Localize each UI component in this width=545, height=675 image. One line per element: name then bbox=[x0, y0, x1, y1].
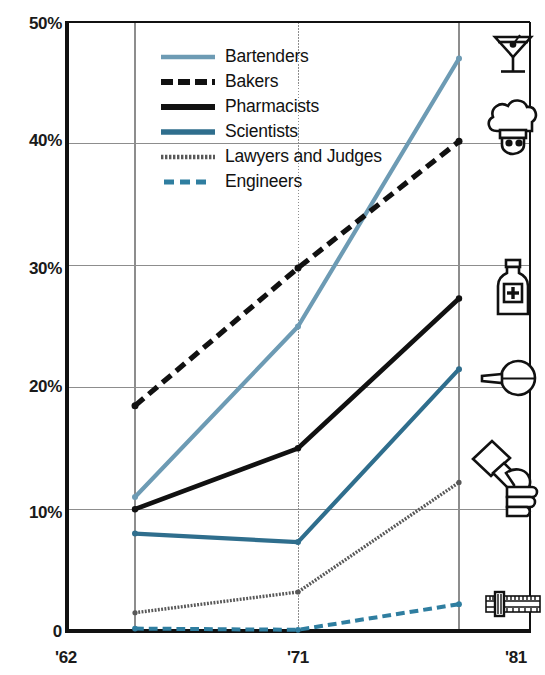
legend-swatch-bakers bbox=[160, 76, 216, 88]
legend-label-scientists: Scientists bbox=[225, 123, 298, 141]
legend-item-bakers: Bakers bbox=[160, 69, 390, 94]
flask-icon bbox=[480, 356, 542, 400]
slide-rule-icon bbox=[484, 588, 542, 620]
legend-swatch-lawyers bbox=[160, 151, 216, 163]
legend-swatch-bartenders bbox=[160, 51, 216, 63]
legend-item-engineers: Engineers bbox=[160, 169, 390, 194]
legend-swatch-pharmacists bbox=[160, 101, 216, 113]
legend-item-pharmacists: Pharmacists bbox=[160, 94, 390, 119]
legend-label-bakers: Bakers bbox=[225, 73, 278, 91]
legend-label-bartenders: Bartenders bbox=[225, 48, 309, 66]
legend-label-lawyers: Lawyers and Judges bbox=[225, 148, 382, 166]
legend-item-bartenders: Bartenders bbox=[160, 44, 390, 69]
legend-label-pharmacists: Pharmacists bbox=[225, 98, 319, 116]
legend-item-scientists: Scientists bbox=[160, 119, 390, 144]
legend-label-engineers: Engineers bbox=[225, 173, 302, 191]
legend-item-lawyers: Lawyers and Judges bbox=[160, 144, 390, 169]
chef-hat-icon bbox=[484, 95, 542, 157]
martini-glass-icon bbox=[487, 27, 539, 79]
legend: Bartenders Bakers Pharmacists Scientists bbox=[160, 44, 390, 194]
line-chart: 50% 40% 30% 20% 10% 0 '62 '71 '81 Barten… bbox=[0, 0, 545, 675]
legend-swatch-engineers bbox=[160, 176, 216, 188]
medicine-bottle-icon bbox=[490, 258, 536, 320]
legend-swatch-scientists bbox=[160, 126, 216, 138]
gavel-icon bbox=[466, 437, 542, 521]
